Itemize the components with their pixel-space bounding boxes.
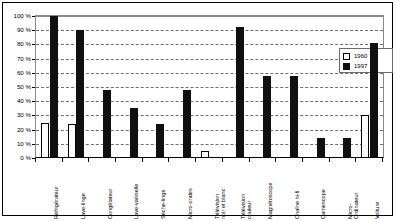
x-axis-category-label-line: Télévision [214,163,220,219]
y-axis-tick-label: 0 % [3,155,31,161]
x-axis-category-label-line: Magnétoscope [267,163,273,219]
bar-1997 [263,76,271,158]
x-axis-category-label: Camescope [320,163,326,219]
x-axis-category-label-line: Micro-ondes [187,163,193,219]
y-axis-tick-label: 20 % [3,126,31,132]
x-axis-category-label: Sèche-linge [160,163,166,219]
x-axis-tick-mark [222,158,223,162]
x-axis-category-label: Voiture [374,163,380,219]
bar-1960 [361,115,369,158]
bar-1997 [76,30,84,158]
x-axis-tick-mark [142,158,143,162]
x-axis-category-label: Lave-vaisselle [133,163,139,219]
x-axis-category-label: Micro-ondes [187,163,193,219]
x-axis-category-label: Congélateur [107,163,113,219]
x-axis-category-label: Télévisioncouleur [240,163,253,219]
y-axis-tick-label: 80 % [3,41,31,47]
x-axis-category-label: Chaîne hi-fi [294,163,300,219]
bar-1960 [68,124,76,158]
x-axis-category-label: Lave-linge [80,163,86,219]
bar-1997 [103,90,111,158]
y-axis: 100 %90 %80 %70 %60 %50 %40 %30 %20 %10 … [3,15,35,158]
x-axis-category-label-line: Sèche-linge [160,163,166,219]
x-axis-tick-mark [35,158,36,162]
bar-1997 [156,124,164,158]
x-axis-category-label: Réfrigérateur [53,163,59,219]
x-axis-category-label-line: Lave-linge [80,163,86,219]
x-axis-tick-mark [302,158,303,162]
x-axis-category-label: Télévisionnoir et blanc [214,163,227,219]
x-axis-tick-mark [249,158,250,162]
x-axis-category-label-line: Chaîne hi-fi [294,163,300,219]
y-axis-tick-label: 10 % [3,141,31,147]
bar-1997 [317,138,325,158]
x-axis-tick-mark [329,158,330,162]
y-axis-tick-label: 70 % [3,55,31,61]
bar-1997 [183,90,191,158]
x-axis-tick-mark [168,158,169,162]
figure-frame: 100 %90 %80 %70 %60 %50 %40 %30 %20 %10 … [2,2,393,216]
bar-1997 [50,16,58,158]
y-axis-tick-label: 90 % [3,27,31,33]
bar-1997 [236,27,244,158]
x-axis-category-label-line: Congélateur [107,163,113,219]
y-axis-tick-label: 60 % [3,70,31,76]
x-axis-category-label: Micro-Ordinateur [347,163,360,219]
y-axis-tick-label: 100 % [3,13,31,19]
bar-1960 [41,123,49,159]
x-axis-category-label-line: Micro- [347,163,353,219]
bar-1997 [343,138,351,158]
bar-1997 [290,76,298,158]
x-axis-labels: RéfrigérateurLave-lingeCongélateurLave-v… [35,163,384,219]
x-axis-category-label: Magnétoscope [267,163,273,219]
x-axis-tick-mark [195,158,196,162]
x-axis-tick-mark [115,158,116,162]
y-axis-tick-label: 30 % [3,112,31,118]
x-axis-category-label-line: Lave-vaisselle [133,163,139,219]
bar-1997 [370,43,378,158]
x-axis-tick-mark [88,158,89,162]
y-axis-tick-label: 40 % [3,98,31,104]
x-axis-tick-mark [275,158,276,162]
x-axis-category-label-line: noir et blanc [220,163,226,219]
x-axis-category-label-line: couleur [247,163,253,219]
x-axis-category-label-line: Ordinateur [353,163,359,219]
bar-1960 [201,151,209,158]
y-axis-tick-label: 50 % [3,84,31,90]
x-axis-category-label-line: Voiture [374,163,380,219]
chart-screenshot: 100 %90 %80 %70 %60 %50 %40 %30 %20 %10 … [0,0,397,221]
x-axis-tick-mark [382,158,383,162]
bar-1997 [130,108,138,158]
x-axis-tick-mark [355,158,356,162]
x-axis-category-label-line: Camescope [320,163,326,219]
x-axis-category-label-line: Réfrigérateur [53,163,59,219]
x-axis-tick-mark [62,158,63,162]
bar-layer [36,16,383,158]
x-axis-ticks [35,158,384,162]
